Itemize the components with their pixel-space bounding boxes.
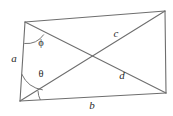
side-label-b: b <box>89 100 95 111</box>
angle-label-theta: θ <box>38 69 43 80</box>
edge-left-side <box>20 22 25 101</box>
diagonal-label-d: d <box>119 70 125 81</box>
side-label-a: a <box>11 53 17 64</box>
diagonal-label-c: c <box>114 28 119 39</box>
edge-right-side <box>165 11 166 93</box>
angle-arc-bottom-left-small <box>38 91 40 100</box>
edge-top-side <box>25 11 165 22</box>
figure-canvas <box>0 0 173 116</box>
angle-label-phi: ϕ <box>38 38 44 49</box>
geometry-figure: a b c d ϕ θ <box>0 0 173 116</box>
diagonal-d-line <box>25 22 166 93</box>
